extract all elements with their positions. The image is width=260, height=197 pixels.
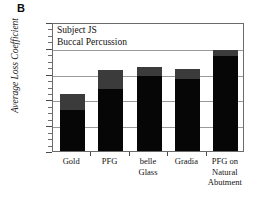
bar-segment-upper: [98, 70, 123, 89]
x-tick-label-line: belle: [129, 156, 167, 167]
bar-segment-lower: [98, 89, 123, 151]
bar-segment-upper: [213, 50, 238, 55]
bar: [213, 50, 238, 151]
bar-segment-upper: [137, 67, 162, 76]
annotation-line-2: Buccal Percussion: [57, 37, 127, 49]
y-tick-mark: [46, 152, 52, 153]
y-axis-title: Average Loss Coefficient: [10, 1, 21, 131]
bar-segment-lower: [213, 56, 238, 151]
x-tick-label-line: PFG: [90, 156, 128, 167]
x-tick-label: PFG: [90, 156, 128, 167]
x-tick-label-line: Glass: [129, 167, 167, 178]
annotation-line-1: Subject JS: [57, 25, 127, 37]
bar: [137, 67, 162, 151]
bar-segment-lower: [60, 110, 85, 151]
figure-panel-b: B Average Loss Coefficient 00.050.10.150…: [0, 0, 260, 197]
x-tick-label: Gradia: [167, 156, 205, 167]
x-tick-label-line: Natural: [206, 167, 244, 178]
bar: [98, 70, 123, 151]
bar-segment-upper: [60, 94, 85, 109]
bar-segment-lower: [175, 79, 200, 151]
plot-annotations: Subject JS Buccal Percussion: [57, 25, 127, 48]
x-tick-label-line: Gold: [52, 156, 90, 167]
bar-segment-upper: [175, 69, 200, 78]
bar: [175, 69, 200, 151]
x-tick-label-line: PFG on: [206, 156, 244, 167]
x-tick-label: PFG onNaturalAbutment: [206, 156, 244, 188]
x-tick-label-line: Abutment: [206, 177, 244, 188]
bar-segment-lower: [137, 76, 162, 151]
x-tick-label: belleGlass: [129, 156, 167, 177]
x-tick-label: Gold: [52, 156, 90, 167]
x-tick-label-line: Gradia: [167, 156, 205, 167]
bar: [60, 94, 85, 151]
